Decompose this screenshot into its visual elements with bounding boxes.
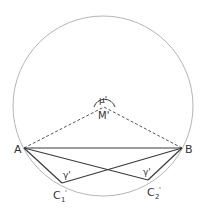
line-A-C2 <box>24 148 148 180</box>
label-A: A <box>14 143 22 156</box>
svg-text:1: 1 <box>61 196 65 204</box>
svg-text:C: C <box>53 189 61 202</box>
svg-text:2: 2 <box>155 193 159 201</box>
svg-text:': ' <box>159 186 161 194</box>
label-C1: C 1 ' <box>53 189 67 204</box>
svg-text:C: C <box>147 186 155 199</box>
label-B: B <box>185 143 193 156</box>
label-gamma-2: γ' <box>143 167 151 177</box>
inscribed-angle-diagram: A B μ' M' γ' γ' C 1 ' C 2 ' <box>0 0 202 212</box>
svg-text:': ' <box>65 189 67 197</box>
label-mu: μ' <box>99 95 107 105</box>
label-M: M' <box>98 110 109 121</box>
dashed-line-A-M <box>24 107 104 148</box>
dashed-line-B-M <box>104 107 182 148</box>
label-C2: C 2 ' <box>147 186 161 201</box>
label-gamma-1: γ' <box>63 170 71 180</box>
